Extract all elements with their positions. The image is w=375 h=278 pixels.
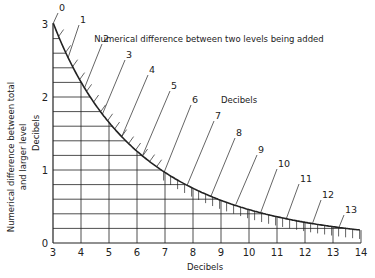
curve-unit-label: Decibels (221, 95, 258, 105)
curve-point-label: 3 (126, 49, 132, 60)
curve-point-label: 13 (345, 204, 357, 215)
y-axis-label-line1: Numerical difference between total (6, 82, 16, 232)
x-tick-label: 12 (299, 247, 312, 258)
curve-point-label: 0 (59, 2, 65, 13)
curve-point-label: 5 (171, 80, 177, 91)
x-tick-label: 6 (134, 247, 140, 258)
x-tick-label: 5 (106, 247, 112, 258)
x-tick-label: 8 (190, 247, 196, 258)
chart-title: Numerical difference between two levels … (94, 34, 324, 44)
y-tick-label: 1 (42, 165, 48, 176)
y-tick-label: 0 (42, 238, 48, 249)
x-tick-label: 10 (243, 247, 256, 258)
curve-point-label: 6 (192, 94, 198, 105)
x-axis-label: Decibels (187, 262, 224, 272)
x-tick-label: 14 (355, 247, 368, 258)
curve-point-label: 12 (322, 189, 334, 200)
curve-point-label: 10 (278, 158, 290, 169)
y-tick-label: 3 (42, 19, 48, 30)
x-tick-label: 13 (327, 247, 340, 258)
curve-point-label: 1 (80, 14, 86, 25)
y-tick-labels: 0123 (42, 19, 48, 249)
x-tick-label: 9 (218, 247, 224, 258)
y-axis-label-line2: and larger level (18, 124, 28, 191)
x-tick-label: 11 (271, 247, 284, 258)
y-axis-unit-label: Decibels (31, 114, 41, 151)
x-tick-label: 7 (162, 247, 168, 258)
curve-hatching (59, 30, 360, 239)
curve-point-label: 7 (215, 110, 221, 121)
x-tick-labels: 34567891011121314 (50, 247, 368, 258)
x-tick-label: 4 (78, 247, 84, 258)
curve-point-label: 4 (149, 64, 155, 75)
x-tick-label: 3 (50, 247, 56, 258)
y-tick-label: 2 (42, 92, 48, 103)
curve-point-label: 8 (236, 127, 242, 138)
curve-point-label: 11 (300, 173, 312, 184)
grid-lines (53, 23, 361, 243)
decibel-addition-chart: 012345678910111213 34567891011121314 012… (0, 0, 375, 278)
curve-point-label: 9 (258, 144, 264, 155)
